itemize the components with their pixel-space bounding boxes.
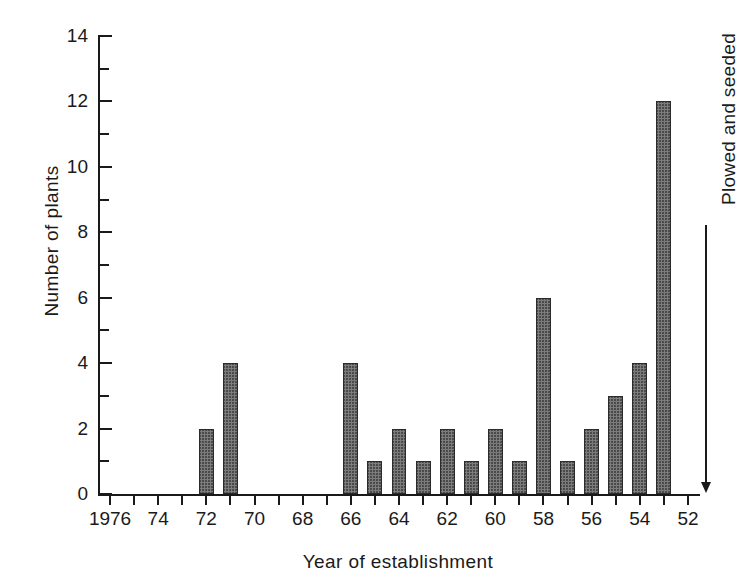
x-axis-title: Year of establishment bbox=[98, 551, 698, 573]
x-tick-label: 60 bbox=[485, 509, 506, 528]
bar bbox=[367, 461, 382, 494]
bar bbox=[656, 101, 671, 494]
x-tick bbox=[567, 496, 569, 505]
y-tick-label: 12 bbox=[52, 91, 88, 110]
x-tick bbox=[639, 496, 641, 505]
y-tick-major bbox=[100, 231, 112, 233]
x-tick bbox=[229, 496, 231, 505]
annotation-arrow-head bbox=[701, 482, 711, 493]
x-tick bbox=[374, 496, 376, 505]
x-tick bbox=[470, 496, 472, 505]
bar bbox=[392, 429, 407, 494]
y-tick-major bbox=[100, 100, 112, 102]
y-tick-label: 2 bbox=[52, 419, 88, 438]
y-tick-label: 6 bbox=[52, 288, 88, 307]
plot-area: 02468101214 1976747270686664626058565452… bbox=[98, 35, 700, 495]
bar bbox=[343, 363, 358, 494]
bar bbox=[416, 461, 431, 494]
y-tick-major bbox=[100, 362, 112, 364]
x-tick bbox=[254, 496, 256, 505]
x-tick bbox=[278, 496, 280, 505]
x-tick-label: 64 bbox=[388, 509, 409, 528]
x-tick-label: 70 bbox=[244, 509, 265, 528]
bar bbox=[584, 429, 599, 494]
bar bbox=[536, 298, 551, 494]
y-tick-minor bbox=[100, 460, 109, 462]
x-tick-label: 72 bbox=[196, 509, 217, 528]
x-tick bbox=[518, 496, 520, 505]
annotation-arrow-shaft bbox=[705, 225, 707, 482]
y-tick-minor bbox=[100, 395, 109, 397]
x-tick bbox=[663, 496, 665, 505]
y-tick-major bbox=[100, 297, 112, 299]
chart-figure: Number of plants Year of establishment 0… bbox=[0, 0, 750, 585]
x-tick-label: 1976 bbox=[89, 509, 131, 528]
y-tick-major bbox=[100, 166, 112, 168]
bar bbox=[560, 461, 575, 494]
bar bbox=[512, 461, 527, 494]
bar bbox=[488, 429, 503, 494]
x-tick bbox=[446, 496, 448, 505]
y-tick-label: 14 bbox=[52, 26, 88, 45]
x-tick bbox=[350, 496, 352, 505]
y-tick-label: 4 bbox=[52, 353, 88, 372]
x-tick bbox=[615, 496, 617, 505]
x-tick-label: 62 bbox=[437, 509, 458, 528]
y-tick-major bbox=[100, 35, 112, 37]
bar bbox=[440, 429, 455, 494]
y-tick-minor bbox=[100, 329, 109, 331]
x-tick-label: 56 bbox=[581, 509, 602, 528]
x-tick-label: 58 bbox=[533, 509, 554, 528]
y-tick-minor bbox=[100, 68, 109, 70]
annotation-label: Plowed and seeded bbox=[718, 33, 740, 205]
y-tick-label: 0 bbox=[52, 484, 88, 503]
x-tick-label: 68 bbox=[292, 509, 313, 528]
x-tick bbox=[398, 496, 400, 505]
x-tick bbox=[157, 496, 159, 505]
x-tick bbox=[181, 496, 183, 505]
y-tick-label: 10 bbox=[52, 157, 88, 176]
y-tick-minor bbox=[100, 133, 109, 135]
x-tick bbox=[205, 496, 207, 505]
x-tick bbox=[133, 496, 135, 505]
x-tick-label: 66 bbox=[340, 509, 361, 528]
x-tick bbox=[542, 496, 544, 505]
bar bbox=[199, 429, 214, 494]
x-tick-label: 54 bbox=[629, 509, 650, 528]
x-tick-label: 74 bbox=[148, 509, 169, 528]
x-tick bbox=[422, 496, 424, 505]
y-tick-minor bbox=[100, 199, 109, 201]
bar bbox=[608, 396, 623, 494]
x-tick bbox=[591, 496, 593, 505]
bar bbox=[632, 363, 647, 494]
x-tick bbox=[109, 496, 111, 505]
bar bbox=[464, 461, 479, 494]
y-tick-major bbox=[100, 493, 112, 495]
y-tick-major bbox=[100, 428, 112, 430]
x-tick-label: 52 bbox=[677, 509, 698, 528]
x-tick bbox=[687, 496, 689, 505]
x-tick bbox=[302, 496, 304, 505]
y-tick-minor bbox=[100, 264, 109, 266]
x-tick bbox=[326, 496, 328, 505]
bar bbox=[223, 363, 238, 494]
x-tick bbox=[494, 496, 496, 505]
y-tick-label: 8 bbox=[52, 222, 88, 241]
